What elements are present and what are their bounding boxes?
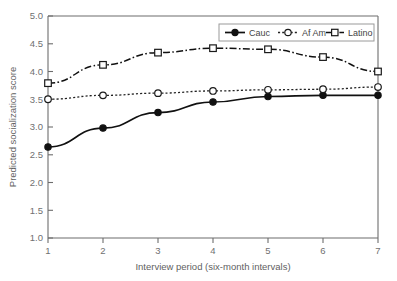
y-tick-label-1: 1.5 (30, 205, 43, 216)
data-point-af-am-5 (265, 87, 272, 94)
y-axis-tick-labels: 1.0 1.5 2.0 2.5 3.0 3.5 4.0 4.5 5.0 (30, 10, 43, 243)
socialization-line-chart: 1.0 1.5 2.0 2.5 3.0 3.5 4.0 4.5 5.0 1 2 … (0, 0, 397, 281)
data-series-layer (45, 45, 382, 150)
legend-label-latino: Latino (348, 28, 373, 38)
data-point-cauc-5 (265, 93, 271, 99)
legend-marker-af-am (285, 29, 291, 35)
x-axis-ticks (48, 238, 378, 243)
data-point-latino-5 (265, 46, 272, 53)
x-tick-label-4: 5 (265, 245, 270, 256)
y-axis-title: Predicted socialization score (7, 67, 18, 187)
data-point-latino-7 (375, 68, 382, 75)
data-point-af-am-6 (320, 86, 327, 93)
data-point-latino-3 (155, 49, 162, 56)
data-point-cauc-2 (100, 125, 106, 131)
x-axis-title: Interview period (six-month intervals) (135, 261, 290, 272)
y-tick-label-6: 4.0 (30, 66, 43, 77)
y-tick-label-8: 5.0 (30, 10, 43, 21)
data-point-latino-6 (320, 54, 327, 61)
y-tick-label-5: 3.5 (30, 94, 43, 105)
y-axis-ticks (48, 16, 53, 238)
y-tick-label-4: 3.0 (30, 121, 43, 132)
data-point-cauc-1 (45, 144, 51, 150)
series-latino (45, 45, 382, 87)
series-cauc (45, 92, 381, 150)
data-point-latino-4 (210, 45, 217, 52)
data-point-af-am-1 (45, 96, 52, 103)
data-point-cauc-4 (210, 99, 216, 105)
series-line-latino (48, 48, 378, 83)
data-point-af-am-2 (100, 92, 107, 99)
data-point-af-am-7 (375, 84, 382, 91)
x-axis-tick-labels: 1 2 3 4 5 6 7 (45, 245, 380, 256)
data-point-latino-2 (100, 62, 107, 69)
x-tick-label-6: 7 (375, 245, 380, 256)
legend-label-af-am: Af Am (302, 28, 326, 38)
y-tick-label-7: 4.5 (30, 38, 43, 49)
x-tick-label-1: 2 (100, 245, 105, 256)
legend-label-cauc: Cauc (249, 28, 271, 38)
x-tick-label-5: 6 (320, 245, 325, 256)
data-point-af-am-4 (210, 88, 217, 95)
y-tick-label-2: 2.0 (30, 177, 43, 188)
x-tick-label-2: 3 (155, 245, 160, 256)
chart-legend: Cauc Af Am Latino (219, 24, 374, 41)
y-tick-label-0: 1.0 (30, 232, 43, 243)
data-point-af-am-3 (155, 90, 162, 97)
x-tick-label-0: 1 (45, 245, 50, 256)
data-point-cauc-7 (375, 92, 381, 98)
data-point-latino-1 (45, 80, 52, 87)
x-tick-label-3: 4 (210, 245, 215, 256)
legend-marker-latino (332, 29, 338, 35)
data-point-cauc-3 (155, 109, 161, 115)
legend-marker-cauc (232, 29, 238, 35)
y-tick-label-3: 2.5 (30, 149, 43, 160)
chart-container: 1.0 1.5 2.0 2.5 3.0 3.5 4.0 4.5 5.0 1 2 … (0, 0, 397, 281)
